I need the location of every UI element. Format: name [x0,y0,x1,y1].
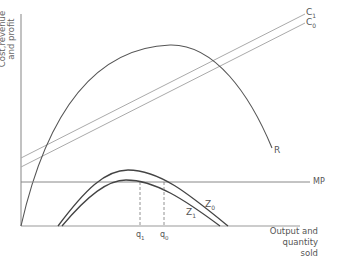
revenue-curve-r [21,45,272,226]
label-q0: q0 [160,230,169,243]
x-axis-label-line1: Output and [268,226,318,237]
label-z1: Z1 [186,207,196,221]
label-q1: q1 [136,230,145,243]
label-z0: Z0 [205,199,215,213]
y-axis-label-line2: and profit [7,4,16,74]
profit-curve-z0 [58,170,228,226]
label-mp: MP [313,177,325,187]
x-axis-label-line2: quantity sold [268,237,318,259]
label-r: R [274,145,280,155]
y-axis-label: Cost,revenue and profit [0,4,16,74]
cost-line-c0 [21,23,305,167]
profit-curve-z1 [62,180,220,226]
cost-line-c1 [21,14,305,158]
label-c0: C0 [306,17,316,31]
x-axis-label: Output and quantity sold [268,226,318,259]
